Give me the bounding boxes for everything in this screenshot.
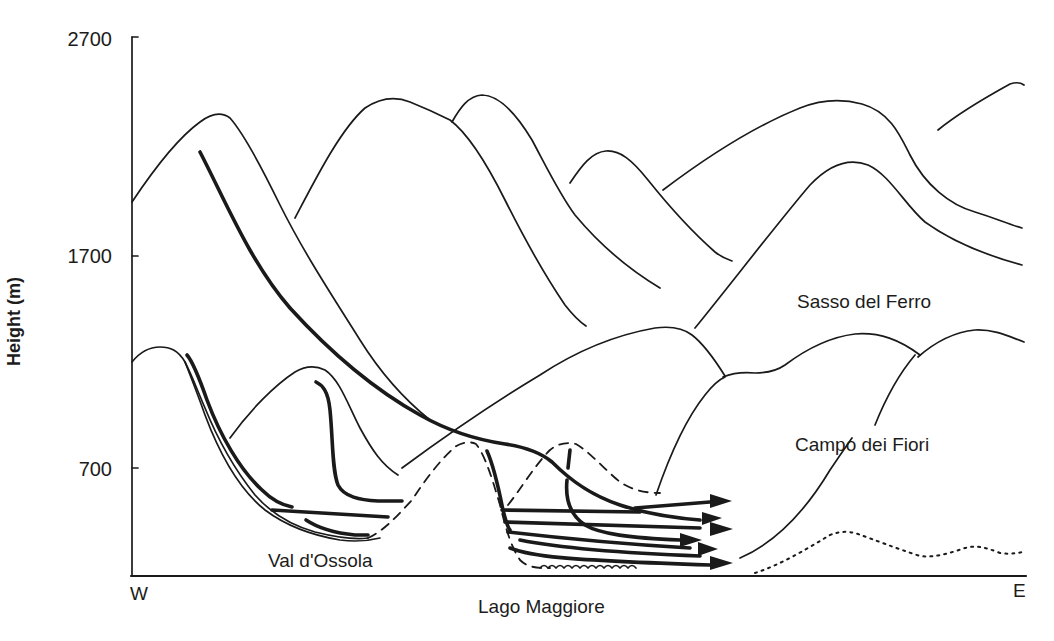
ridge-lower-far-east xyxy=(918,330,1024,357)
flow-west-1 xyxy=(187,355,292,507)
y-tick-label-2700: 2700 xyxy=(32,28,112,51)
ridge-profiles xyxy=(132,83,1024,420)
ridge-lower-central xyxy=(402,327,725,468)
flow-stream-2 xyxy=(505,522,700,528)
arrowhead-1 xyxy=(710,494,732,508)
ridge-lower-east xyxy=(723,334,920,377)
ridge-campo-dei-fiori-east xyxy=(740,438,852,558)
ridge-central xyxy=(452,95,660,288)
flow-descent-east xyxy=(568,450,570,468)
airflow-streamlines xyxy=(187,152,710,565)
dotted-distant-terrain xyxy=(755,532,1025,573)
diagram-canvas xyxy=(0,0,1054,641)
ridge-far-west xyxy=(132,114,430,420)
x-right-label: E xyxy=(1013,580,1026,602)
arrowhead-3 xyxy=(710,522,733,536)
flow-main-long xyxy=(200,152,700,520)
arrowhead-6 xyxy=(710,556,733,570)
flow-west-2 xyxy=(316,382,402,501)
flow-descent-lago xyxy=(487,451,510,530)
ridge-campo-dei-fiori-west xyxy=(656,377,725,495)
y-tick-label-700: 700 xyxy=(32,458,112,481)
ridge-east-right xyxy=(938,83,1024,130)
label-campo-dei-fiori: Campo dei Fiori xyxy=(795,434,929,456)
y-axis-label: Height (m) xyxy=(4,277,25,366)
flow-stream-1 xyxy=(502,510,640,512)
ridge-east-slope xyxy=(875,355,915,425)
x-left-label: W xyxy=(130,583,148,605)
flow-west-3 xyxy=(272,510,388,517)
y-tick-label-1700: 1700 xyxy=(32,245,112,268)
dashed-val-dossola xyxy=(368,442,550,568)
ridge-west-central xyxy=(295,99,586,326)
flow-stream-1b xyxy=(635,502,710,508)
ridge-central-small xyxy=(570,151,732,261)
arrowhead-5 xyxy=(698,542,718,556)
label-sasso-del-ferro: Sasso del Ferro xyxy=(797,291,931,313)
x-center-label: Lago Maggiore xyxy=(478,596,605,618)
label-val-dossola: Val d'Ossola xyxy=(268,550,373,572)
lake-surface-wavy xyxy=(540,566,636,569)
dashed-lago-ridge xyxy=(508,443,660,505)
